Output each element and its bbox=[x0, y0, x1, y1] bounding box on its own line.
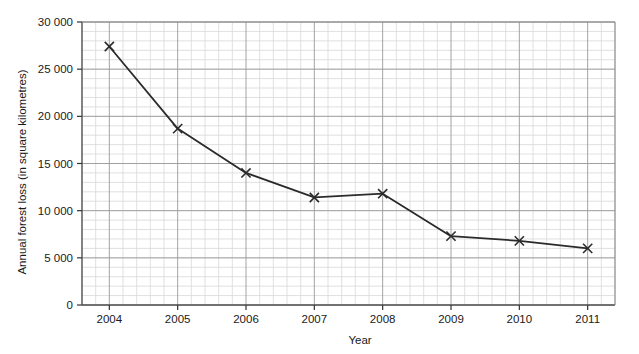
x-tick-label: 2009 bbox=[438, 313, 464, 325]
y-tick-label: 5 000 bbox=[44, 252, 73, 264]
axis-ticks bbox=[77, 22, 588, 310]
y-tick-label: 20 000 bbox=[38, 110, 73, 122]
x-tick-label: 2004 bbox=[97, 313, 123, 325]
line-chart: 05 00010 00015 00020 00025 00030 000 200… bbox=[0, 0, 639, 354]
y-tick-label: 10 000 bbox=[38, 205, 73, 217]
x-tick-label: 2011 bbox=[575, 313, 600, 325]
data-series-line bbox=[109, 47, 587, 249]
y-tick-label: 15 000 bbox=[38, 158, 73, 170]
x-tick-label: 2008 bbox=[370, 313, 396, 325]
y-axis-title: Annual forest loss (in square kilometres… bbox=[16, 69, 28, 274]
y-axis-tick-labels: 05 00010 00015 00020 00025 00030 000 bbox=[38, 16, 73, 311]
y-tick-label: 0 bbox=[67, 299, 73, 311]
major-gridlines bbox=[82, 22, 615, 305]
x-tick-label: 2010 bbox=[507, 313, 533, 325]
chart-container: 05 00010 00015 00020 00025 00030 000 200… bbox=[0, 0, 639, 354]
x-tick-label: 2005 bbox=[165, 313, 191, 325]
x-tick-label: 2007 bbox=[302, 313, 328, 325]
y-tick-label: 30 000 bbox=[38, 16, 73, 28]
x-axis-title: Year bbox=[348, 334, 371, 346]
x-tick-label: 2006 bbox=[233, 313, 259, 325]
x-axis-tick-labels: 20042005200620072008200920102011 bbox=[97, 313, 600, 325]
y-tick-label: 25 000 bbox=[38, 63, 73, 75]
